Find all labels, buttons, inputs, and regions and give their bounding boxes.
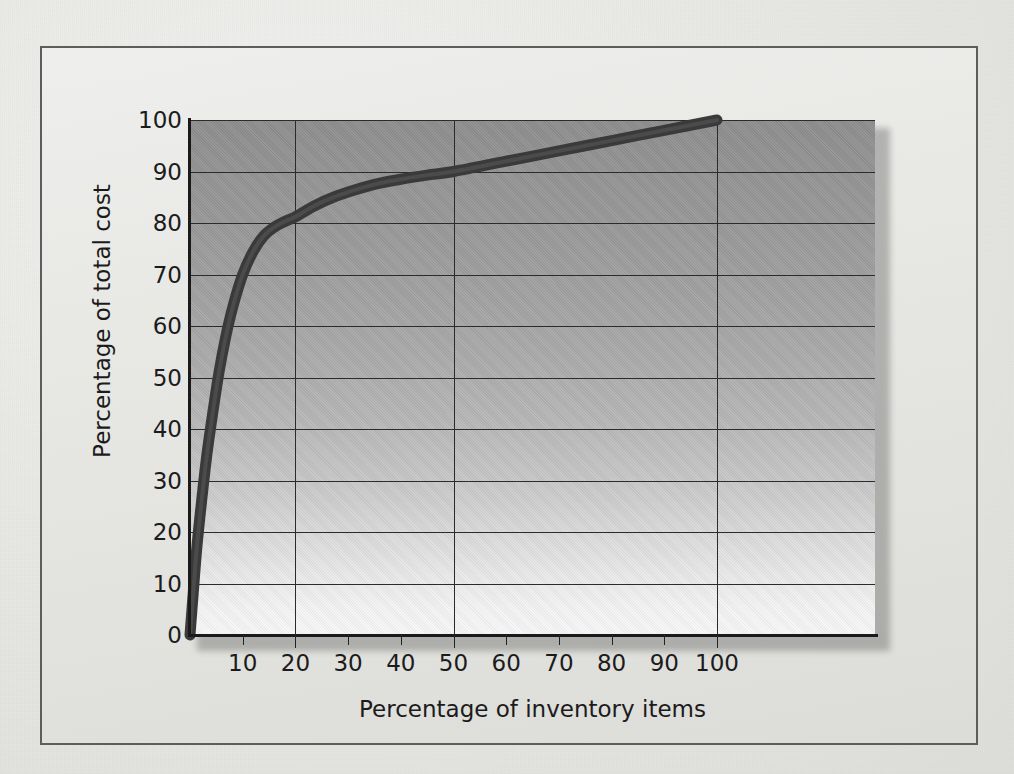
chart-area: 0102030405060708090100 10203040506070809… xyxy=(42,48,980,747)
x-tick-40 xyxy=(401,634,402,645)
y-axis-tick-labels: 0102030405060708090100 xyxy=(120,48,182,747)
x-tick-label-90: 90 xyxy=(634,652,694,675)
y-tick-label-10: 10 xyxy=(122,573,182,596)
x-tick-60 xyxy=(506,634,507,645)
figure-frame: 0102030405060708090100 10203040506070809… xyxy=(40,46,978,745)
y-axis-title: Percentage of total cost xyxy=(89,111,115,531)
y-tick-label-100: 100 xyxy=(122,109,182,132)
y-tick-label-30: 30 xyxy=(122,470,182,493)
x-tick-label-30: 30 xyxy=(318,652,378,675)
x-tick-label-70: 70 xyxy=(529,652,589,675)
x-axis-line xyxy=(188,634,878,637)
x-tick-80 xyxy=(612,634,613,645)
y-tick-label-70: 70 xyxy=(122,264,182,287)
x-tick-label-80: 80 xyxy=(582,652,642,675)
y-axis-line xyxy=(188,118,191,637)
y-tick-label-40: 40 xyxy=(122,418,182,441)
x-tick-90 xyxy=(664,634,665,645)
x-tick-30 xyxy=(348,634,349,645)
y-tick-label-0: 0 xyxy=(122,624,182,647)
y-tick-label-80: 80 xyxy=(122,212,182,235)
x-tick-20 xyxy=(295,634,296,648)
x-tick-label-60: 60 xyxy=(476,652,536,675)
pareto-curve xyxy=(190,120,930,650)
x-tick-label-100: 100 xyxy=(687,652,747,675)
x-tick-label-20: 20 xyxy=(265,652,325,675)
x-tick-label-50: 50 xyxy=(424,652,484,675)
x-tick-label-10: 10 xyxy=(213,652,273,675)
plot-area xyxy=(190,120,875,635)
y-tick-label-50: 50 xyxy=(122,367,182,390)
page-background: 0102030405060708090100 10203040506070809… xyxy=(0,0,1014,774)
x-tick-10 xyxy=(243,634,244,645)
y-tick-label-20: 20 xyxy=(122,521,182,544)
y-tick-label-90: 90 xyxy=(122,161,182,184)
x-axis-title: Percentage of inventory items xyxy=(190,696,875,722)
y-tick-label-60: 60 xyxy=(122,315,182,338)
x-tick-70 xyxy=(559,634,560,645)
x-tick-50 xyxy=(454,634,455,648)
x-tick-100 xyxy=(717,634,718,648)
x-tick-label-40: 40 xyxy=(371,652,431,675)
